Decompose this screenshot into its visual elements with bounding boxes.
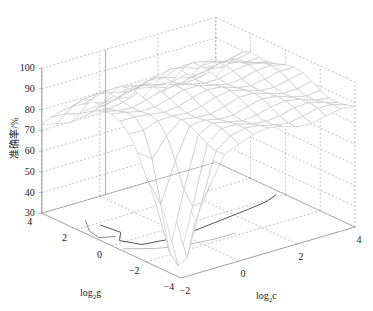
z-tick: 80	[25, 104, 35, 115]
z-tick: 50	[25, 166, 35, 177]
z-axis-label: 准确率/%	[8, 117, 20, 158]
y-axis-label: log2g	[80, 287, 101, 301]
z-tick: 60	[25, 145, 35, 156]
z-tick: 40	[25, 187, 35, 198]
z-tick: 90	[25, 83, 35, 94]
g-tick: 0	[97, 249, 102, 260]
g-tick: −2	[129, 265, 140, 276]
g-tick: −4	[164, 281, 175, 292]
c-tick: 4	[357, 234, 362, 245]
grid-line	[42, 17, 216, 68]
floor-edge	[216, 162, 355, 227]
z-tick: 70	[25, 124, 35, 135]
x-axis-label: log2c	[256, 290, 277, 304]
surface-plot: 30405060708090100−4−2024−2024 准确率/% log2…	[0, 0, 373, 311]
g-tick: 2	[62, 232, 67, 243]
c-tick: 0	[241, 268, 246, 279]
c-tick: −2	[180, 285, 191, 296]
g-tick: 4	[27, 216, 32, 227]
c-tick: 2	[299, 251, 304, 262]
z-tick: 100	[20, 62, 35, 73]
g-axis	[42, 213, 181, 278]
c-axis	[181, 227, 355, 278]
accuracy-surface	[42, 52, 355, 266]
